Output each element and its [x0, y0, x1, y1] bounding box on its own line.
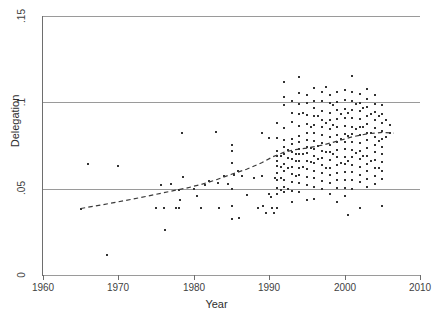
- data-point: [283, 179, 285, 181]
- data-point: [366, 98, 368, 100]
- x-tick-label-1990: 1990: [249, 282, 289, 293]
- data-point: [306, 146, 308, 148]
- data-point: [321, 100, 323, 102]
- data-point: [276, 179, 278, 181]
- data-point: [325, 167, 327, 169]
- data-point: [265, 212, 267, 214]
- data-point: [280, 166, 282, 168]
- data-point: [268, 137, 270, 139]
- data-point: [362, 107, 364, 109]
- data-point: [313, 140, 315, 142]
- data-point: [344, 179, 346, 181]
- data-point: [306, 94, 308, 96]
- y-tick-label-0: 0: [8, 269, 36, 281]
- data-point: [336, 187, 338, 189]
- data-point: [313, 148, 315, 150]
- data-point: [359, 93, 361, 95]
- y-axis-title: Delegation: [0, 114, 55, 128]
- data-point: [231, 150, 233, 152]
- data-point: [321, 164, 323, 166]
- data-point: [298, 167, 300, 169]
- data-point: [310, 147, 312, 149]
- data-point: [344, 171, 346, 173]
- data-point: [351, 171, 353, 173]
- data-point: [359, 166, 361, 168]
- data-point: [317, 145, 319, 147]
- data-point: [344, 163, 346, 165]
- data-point: [329, 128, 331, 130]
- data-point: [302, 153, 304, 155]
- data-point: [175, 207, 177, 209]
- data-point: [231, 144, 233, 146]
- data-point: [276, 187, 278, 189]
- data-point: [359, 174, 361, 176]
- data-point: [366, 163, 368, 165]
- data-point: [313, 162, 315, 164]
- data-point: [325, 86, 327, 88]
- data-point: [313, 107, 315, 109]
- data-point: [366, 106, 368, 108]
- data-point: [164, 229, 166, 231]
- data-point: [332, 124, 334, 126]
- data-point: [340, 162, 342, 164]
- data-point: [381, 178, 383, 180]
- data-point: [336, 109, 338, 111]
- x-tick-2010: [420, 275, 421, 280]
- data-point: [370, 160, 372, 162]
- gridline-y-0: [43, 275, 420, 276]
- data-point: [378, 167, 380, 169]
- data-point: [336, 126, 338, 128]
- data-point: [204, 184, 206, 186]
- data-point: [313, 198, 315, 200]
- data-point: [370, 132, 372, 134]
- data-point: [291, 181, 293, 183]
- data-point: [223, 175, 225, 177]
- data-point: [283, 170, 285, 172]
- data-point: [280, 155, 282, 157]
- data-point: [291, 121, 293, 123]
- data-point: [178, 207, 180, 209]
- data-point: [262, 205, 264, 207]
- data-point: [381, 122, 383, 124]
- data-point: [291, 201, 293, 203]
- data-point: [291, 100, 293, 102]
- data-point: [362, 126, 364, 128]
- data-point: [381, 205, 383, 207]
- data-point: [340, 113, 342, 115]
- data-point: [283, 153, 285, 155]
- data-point: [359, 207, 361, 209]
- data-point: [351, 149, 353, 151]
- data-point: [378, 115, 380, 117]
- data-point: [374, 94, 376, 96]
- data-point: [170, 183, 172, 185]
- data-point: [291, 151, 293, 153]
- data-point: [283, 191, 285, 193]
- data-point: [317, 158, 319, 160]
- data-point: [332, 104, 334, 106]
- x-axis-title: Year: [0, 298, 433, 310]
- data-point: [298, 153, 300, 155]
- data-point: [321, 150, 323, 152]
- data-point: [298, 76, 300, 78]
- data-point: [329, 174, 331, 176]
- data-point: [283, 139, 285, 141]
- data-point: [366, 155, 368, 157]
- data-point: [351, 179, 353, 181]
- data-point: [276, 172, 278, 174]
- data-point: [336, 141, 338, 143]
- x-tick-label-2000: 2000: [325, 282, 365, 293]
- data-point: [344, 125, 346, 127]
- data-point: [182, 176, 184, 178]
- data-point: [344, 99, 346, 101]
- data-point: [291, 190, 293, 192]
- data-point: [287, 167, 289, 169]
- data-point: [313, 186, 315, 188]
- data-point: [208, 180, 210, 182]
- data-point: [298, 113, 300, 115]
- data-point: [329, 193, 331, 195]
- data-point: [321, 91, 323, 93]
- data-point: [291, 138, 293, 140]
- data-point: [313, 155, 315, 157]
- x-tick-label-1960: 1960: [23, 282, 63, 293]
- data-point: [276, 137, 278, 139]
